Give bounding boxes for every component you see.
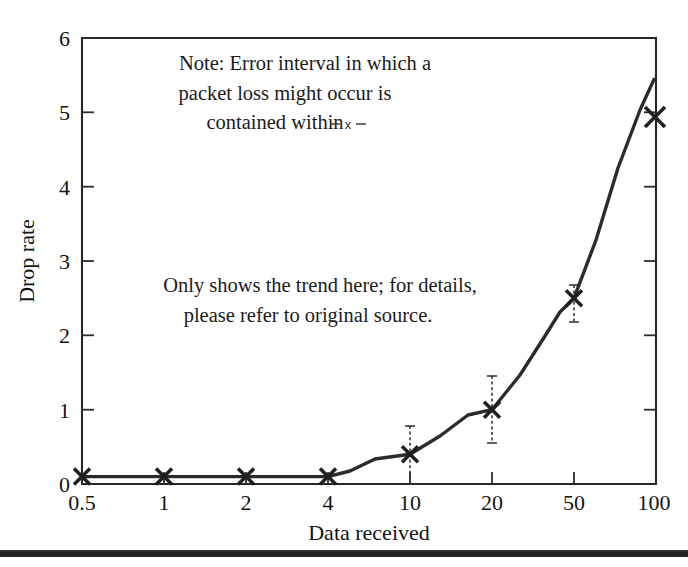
x-tick-label-7: 100 xyxy=(638,490,671,515)
note-error-line-0: Note: Error interval in which a xyxy=(179,52,431,74)
y-tick-label-2: 2 xyxy=(59,323,70,348)
y-tick-label-4: 4 xyxy=(59,175,70,200)
y-axis-title: Drop rate xyxy=(14,219,39,303)
y-tick-label-3: 3 xyxy=(59,249,70,274)
x-axis-title: Data received xyxy=(308,520,430,545)
note-trend-line-0: Only shows the trend here; for details, xyxy=(163,274,477,297)
x-tick-label-3: 4 xyxy=(323,490,334,515)
drop-rate-line-chart: 0 1 2 3 4 5 6 0.5 1 2 4 10 20 50 100 Dat… xyxy=(0,0,688,567)
y-axis-ticks-right xyxy=(644,112,656,409)
x-tick-label-1: 1 xyxy=(159,490,170,515)
y-axis-ticks xyxy=(82,38,94,484)
y-tick-label-5: 5 xyxy=(59,100,70,125)
chart-figure: 0 1 2 3 4 5 6 0.5 1 2 4 10 20 50 100 Dat… xyxy=(0,0,688,567)
x-tick-label-4: 10 xyxy=(399,490,421,515)
x-tick-label-5: 20 xyxy=(481,490,503,515)
plot-frame xyxy=(82,38,656,484)
note-error-line-1: packet loss might occur is xyxy=(179,82,392,105)
note-trend: Only shows the trend here; for details, … xyxy=(163,274,477,327)
legend-x-marker: x xyxy=(345,117,352,132)
x-tick-label-6: 50 xyxy=(563,490,585,515)
note-error-interval: Note: Error interval in which a packet l… xyxy=(179,52,432,133)
page-bottom-rule xyxy=(0,550,688,557)
note-error-line-2: contained within xyxy=(206,111,343,133)
x-tick-label-2: 2 xyxy=(241,490,252,515)
y-tick-label-6: 6 xyxy=(59,26,70,51)
y-tick-label-1: 1 xyxy=(59,398,70,423)
x-tick-label-0: 0.5 xyxy=(68,490,96,515)
note-trend-line-1: please refer to original source. xyxy=(184,304,433,327)
